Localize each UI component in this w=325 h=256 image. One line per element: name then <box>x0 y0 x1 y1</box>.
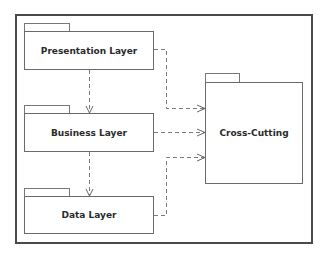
dependency-connectors <box>0 0 325 256</box>
dependency-data-to-crosscutting <box>154 158 204 216</box>
dependency-presentation-to-crosscutting <box>154 50 204 109</box>
